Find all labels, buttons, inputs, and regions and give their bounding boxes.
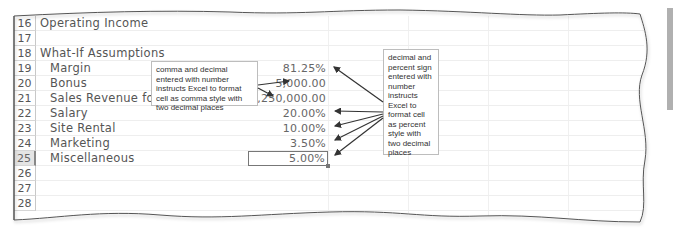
row-23: 23 Site Rental 10.00% (14, 121, 644, 136)
row-25: 25 Miscellaneous 5.00% (14, 151, 644, 166)
cell-label[interactable]: Bonus (50, 76, 87, 91)
row-header[interactable]: 27 (14, 181, 36, 196)
worksheet-grid: 16 Operating Income 17 18 What-If Assump… (14, 16, 644, 216)
cell-label[interactable]: Marketing (50, 136, 110, 151)
cell-value-site-rental[interactable]: 10.00% (248, 121, 328, 136)
row-header[interactable]: 16 (14, 16, 36, 31)
cell-label[interactable]: Operating Income (40, 16, 148, 31)
cell-value-marketing[interactable]: 3.50% (248, 136, 328, 151)
cell-label[interactable]: Site Rental (50, 121, 116, 136)
row-header[interactable]: 19 (14, 61, 36, 76)
worksheet-excerpt: 16 Operating Income 17 18 What-If Assump… (0, 0, 673, 235)
side-tab-marker (667, 8, 673, 110)
cell-value-sales-revenue[interactable]: 1,250,000.00 (248, 91, 328, 106)
row-header[interactable]: 17 (14, 31, 36, 46)
cell-label[interactable]: Miscellaneous (50, 151, 135, 166)
row-16: 16 Operating Income (14, 16, 644, 31)
callout-comma-style: comma and decimal entered with number in… (151, 61, 258, 106)
row-header[interactable]: 26 (14, 166, 36, 181)
row-18: 18 What-If Assumptions (14, 46, 644, 61)
cell-value-margin[interactable]: 81.25% (248, 61, 328, 76)
row-22: 22 Salary 20.00% (14, 106, 644, 121)
cell-label[interactable]: Margin (50, 61, 91, 76)
row-header[interactable]: 23 (14, 121, 36, 136)
cell-label[interactable]: Salary (50, 106, 88, 121)
row-17: 17 (14, 31, 644, 46)
row-header[interactable]: 21 (14, 91, 36, 106)
row-21: 21 Sales Revenue for Bor 1,250,000.00 (14, 91, 644, 106)
row-header[interactable]: 28 (14, 196, 36, 211)
row-28: 28 (14, 196, 644, 211)
row-header[interactable]: 24 (14, 136, 36, 151)
row-20: 20 Bonus 5,000.00 (14, 76, 644, 91)
cell-label[interactable]: What-If Assumptions (40, 46, 165, 61)
row-header[interactable]: 18 (14, 46, 36, 61)
cell-value-bonus[interactable]: 5,000.00 (248, 76, 328, 91)
cell-value-miscellaneous-selected[interactable]: 5.00% (248, 151, 328, 166)
row-24: 24 Marketing 3.50% (14, 136, 644, 151)
row-27: 27 (14, 181, 644, 196)
cell-value-salary[interactable]: 20.00% (248, 106, 328, 121)
row-header[interactable]: 22 (14, 106, 36, 121)
callout-percent-style: decimal and percent sign entered with nu… (383, 49, 439, 155)
row-19: 19 Margin 81.25% (14, 61, 644, 76)
row-header-active[interactable]: 25 (14, 151, 36, 166)
row-26: 26 (14, 166, 644, 181)
row-header[interactable]: 20 (14, 76, 36, 91)
